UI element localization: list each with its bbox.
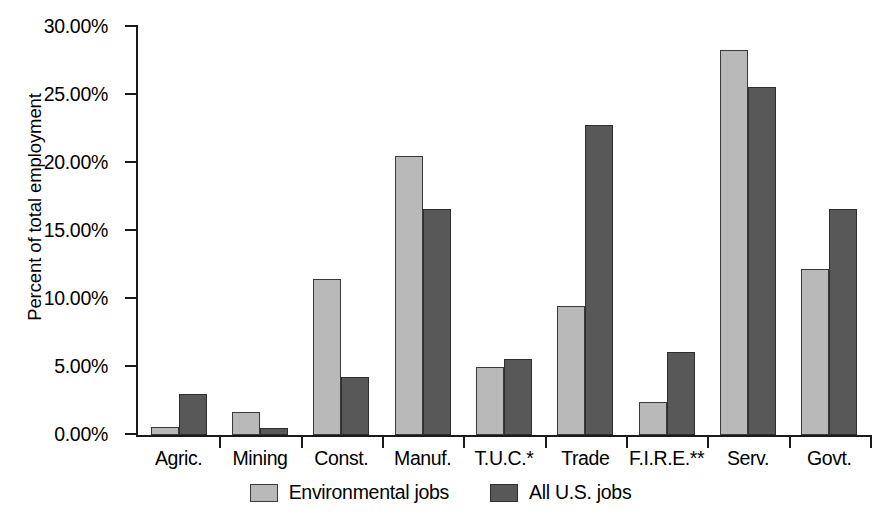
bar (313, 279, 341, 435)
y-axis-tick: 5.00% (125, 365, 138, 367)
bar-group (219, 27, 300, 435)
bar-group (545, 27, 626, 435)
bar (151, 427, 179, 435)
y-axis-title: Percent of total employment (24, 7, 46, 407)
x-axis-tick (870, 435, 872, 448)
x-axis-tick-label: Agric. (155, 447, 202, 470)
bar (476, 367, 504, 435)
bar (179, 394, 207, 435)
bar (395, 156, 423, 435)
bar (423, 209, 451, 435)
x-axis-tick-label: Govt. (807, 447, 852, 470)
bar (829, 209, 857, 435)
y-axis-tick-label: 25.00% (44, 83, 108, 106)
y-axis-tick: 10.00% (125, 297, 138, 299)
bar-group (626, 27, 707, 435)
x-axis-tick (382, 435, 384, 448)
bar-group (463, 27, 544, 435)
y-axis-tick-label: 20.00% (44, 151, 108, 174)
x-axis-tick-label: Serv. (727, 447, 769, 470)
y-axis-tick-label: 30.00% (44, 15, 108, 38)
bar (260, 428, 288, 435)
legend-entry: All U.S. jobs (490, 481, 631, 504)
bar (232, 412, 260, 435)
x-axis-tick-label: Mining (232, 447, 287, 470)
chart-legend: Environmental jobsAll U.S. jobs (0, 481, 881, 504)
y-axis-tick: 15.00% (125, 229, 138, 231)
x-axis-tick-label: Const. (314, 447, 368, 470)
bar-group (707, 27, 788, 435)
y-axis-tick-label: 15.00% (44, 219, 108, 242)
x-axis-tick (219, 435, 221, 448)
bar-group (138, 27, 219, 435)
bar (720, 50, 748, 435)
legend-entry: Environmental jobs (250, 481, 449, 504)
x-axis-tick-label: F.I.R.E.** (629, 447, 704, 470)
bar-group (382, 27, 463, 435)
bar (639, 402, 667, 435)
bar-group (301, 27, 382, 435)
y-axis-tick-label: 10.00% (44, 287, 108, 310)
bar (341, 377, 369, 435)
x-axis-tick-label: Trade (561, 447, 609, 470)
plot-area: 0.00%5.00%10.00%15.00%20.00%25.00%30.00%… (136, 27, 870, 437)
bar (557, 306, 585, 435)
bar (585, 125, 613, 435)
x-axis-tick (789, 435, 791, 448)
y-axis-tick: 30.00% (125, 25, 138, 27)
bar (801, 269, 829, 435)
bar (748, 87, 776, 435)
legend-label: All U.S. jobs (529, 481, 631, 504)
bar-chart: Percent of total employment 0.00%5.00%10… (0, 0, 881, 528)
x-axis-tick (545, 435, 547, 448)
bar-group (789, 27, 870, 435)
bar (504, 359, 532, 435)
x-axis-tick (301, 435, 303, 448)
y-axis-tick: 20.00% (125, 161, 138, 163)
x-axis-tick (707, 435, 709, 448)
legend-label: Environmental jobs (289, 481, 449, 504)
x-axis-tick (626, 435, 628, 448)
y-axis-tick-label: 0.00% (54, 423, 108, 446)
y-axis-tick: 25.00% (125, 93, 138, 95)
legend-swatch-icon (490, 484, 518, 502)
legend-swatch-icon (250, 484, 278, 502)
y-axis-tick-label: 5.00% (54, 355, 108, 378)
y-axis-tick: 0.00% (125, 433, 138, 435)
x-axis-tick-label: Manuf. (394, 447, 451, 470)
bar (667, 352, 695, 435)
x-axis-tick-label: T.U.C.* (475, 447, 534, 470)
x-axis-tick (463, 435, 465, 448)
